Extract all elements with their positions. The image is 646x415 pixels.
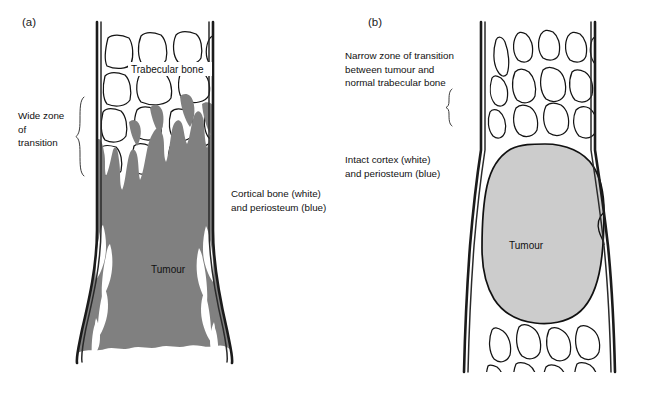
wide-zone-line-2: of [18, 124, 26, 135]
panel-b-tumour-mass [482, 144, 604, 324]
narrow-zone-line-2: between tumour and [345, 64, 434, 75]
cortical-bone-line-2: and periosteum (blue) [231, 202, 326, 213]
intact-cortex-line-1: Intact cortex (white) [345, 154, 430, 165]
panel-b-tumour-outline [482, 144, 604, 324]
panel-a-annotation-trabecular: Trabecular bone [128, 62, 212, 76]
narrow-zone-line-1: Narrow zone of transition [345, 50, 454, 61]
panel-a-label: (a) [22, 16, 36, 28]
cortical-bone-line-1: Cortical bone (white) [231, 188, 321, 199]
narrow-zone-line-3: normal trabecular bone [345, 77, 446, 88]
trabecular-bone-label: Trabecular bone [131, 64, 204, 75]
wide-zone-line-1: Wide zone [18, 110, 65, 121]
wide-zone-line-3: transition [18, 137, 58, 148]
bone-tumour-diagram: (a) [0, 0, 646, 415]
panel-b-label: (b) [368, 16, 382, 28]
panel-a-tumour-label: Tumour [151, 264, 186, 275]
panel-b-tumour-label: Tumour [509, 240, 544, 251]
intact-cortex-line-2: and periosteum (blue) [345, 168, 440, 179]
